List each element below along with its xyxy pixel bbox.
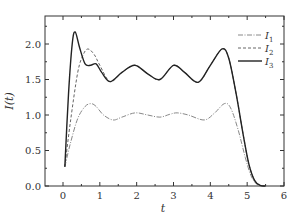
series-i2-line: [65, 49, 266, 186]
y-axis-ticks: 0.00.51.01.52.0: [25, 26, 284, 191]
series-i1-line: [65, 103, 266, 186]
x-tick-label: 4: [207, 190, 213, 201]
legend: I1I2I3: [238, 30, 273, 70]
x-axis-ticks: 0123456: [60, 16, 287, 201]
x-tick-label: 5: [244, 190, 250, 201]
x-tick-label: 6: [281, 190, 287, 201]
x-tick-label: 2: [133, 190, 139, 201]
y-tick-label: 1.5: [25, 74, 41, 85]
y-tick-label: 2.0: [25, 39, 41, 50]
x-axis-label: t: [161, 202, 166, 215]
x-tick-label: 1: [97, 190, 103, 201]
data-series: [65, 32, 266, 186]
y-tick-label: 0.5: [25, 145, 41, 156]
y-axis-label: I(t): [3, 92, 16, 110]
x-tick-label: 3: [170, 190, 176, 201]
y-tick-label: 0.0: [25, 181, 41, 192]
y-tick-label: 1.0: [25, 110, 41, 121]
legend-label-i1: I1: [264, 30, 273, 44]
x-tick-label: 0: [60, 190, 66, 201]
line-chart: 0123456 0.00.51.01.52.0 I1I2I3 t I(t): [0, 0, 300, 218]
legend-label-i2: I2: [264, 43, 273, 57]
legend-label-i3: I3: [264, 56, 273, 70]
